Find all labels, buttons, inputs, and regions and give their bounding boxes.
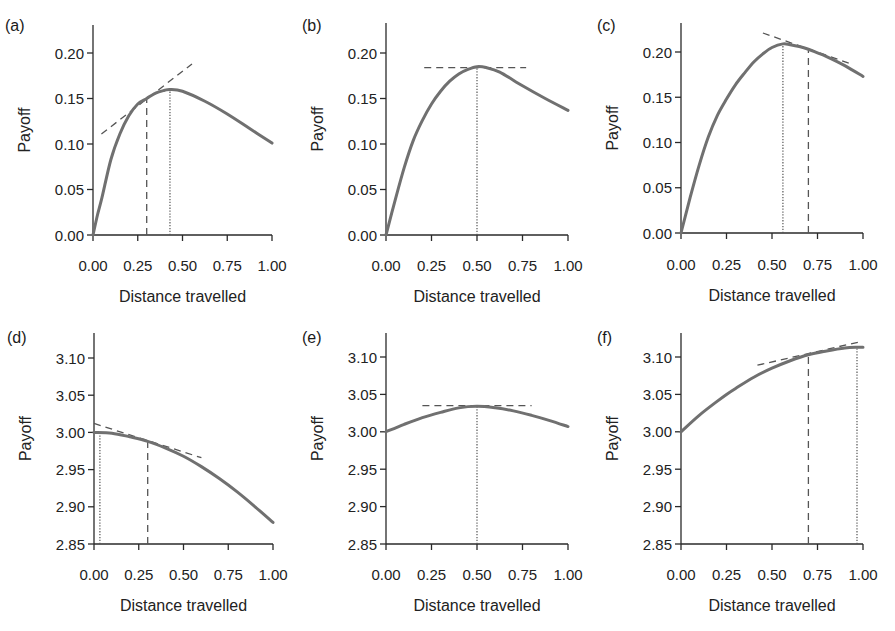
y-tick-label: 0.20 (643, 44, 672, 61)
y-tick-label: 0.10 (643, 134, 672, 151)
y-tick-label: 0.05 (55, 181, 84, 198)
x-tick-label: 0.00 (371, 257, 400, 274)
x-tick-label: 0.00 (79, 566, 108, 583)
y-tick-label: 2.95 (643, 461, 672, 478)
x-tick-label: 0.75 (214, 566, 243, 583)
x-tick-label: 0.75 (508, 257, 537, 274)
x-axis-title: Distance travelled (119, 288, 246, 305)
x-tick-label: 0.50 (757, 566, 786, 583)
y-axis-title: Payoff (17, 415, 34, 461)
x-axis-title: Distance travelled (413, 597, 540, 614)
x-tick-label: 0.75 (803, 256, 832, 273)
x-tick-label: 1.00 (258, 566, 287, 583)
payoff-curve (681, 44, 863, 233)
y-tick-label: 2.85 (643, 536, 672, 553)
y-axis-title: Payoff (309, 106, 326, 152)
y-tick-label: 0.10 (348, 136, 377, 153)
panel-label-a: (a) (5, 17, 25, 34)
x-tick-label: 0.25 (712, 566, 741, 583)
y-tick-label: 0.00 (643, 225, 672, 242)
y-tick-label: 0.05 (348, 181, 377, 198)
y-tick-label: 2.95 (348, 461, 377, 478)
x-tick-label: 0.00 (666, 566, 695, 583)
x-tick-label: 0.25 (123, 257, 152, 274)
x-tick-label: 0.25 (417, 566, 446, 583)
y-tick-label: 0.15 (643, 89, 672, 106)
y-tick-label: 0.20 (348, 45, 377, 62)
x-tick-label: 1.00 (848, 256, 877, 273)
y-tick-label: 3.10 (348, 349, 377, 366)
y-tick-label: 2.90 (348, 498, 377, 515)
x-tick-label: 0.50 (168, 257, 197, 274)
panel-label-f: (f) (597, 329, 612, 346)
y-tick-label: 3.00 (348, 423, 377, 440)
panel-d: (d)2.852.902.953.003.053.100.000.250.500… (7, 329, 288, 614)
y-tick-label: 2.95 (56, 461, 85, 478)
y-tick-label: 0.00 (348, 227, 377, 244)
panel-c: (c)0.000.050.100.150.200.000.250.500.751… (597, 17, 878, 304)
y-tick-label: 2.90 (56, 498, 85, 515)
panel-f: (f)2.852.902.953.003.053.100.000.250.500… (597, 329, 878, 614)
x-tick-label: 1.00 (553, 566, 582, 583)
x-tick-label: 1.00 (257, 257, 286, 274)
x-tick-label: 0.25 (712, 256, 741, 273)
payoff-curve (93, 89, 272, 235)
panel-label-b: (b) (302, 17, 322, 34)
y-tick-label: 2.85 (56, 536, 85, 553)
x-tick-label: 0.00 (371, 566, 400, 583)
y-axis-title: Payoff (604, 415, 621, 461)
x-axis-title: Distance travelled (413, 288, 540, 305)
y-tick-label: 2.90 (643, 498, 672, 515)
x-axis-title: Distance travelled (120, 597, 247, 614)
x-tick-label: 0.25 (417, 257, 446, 274)
x-tick-label: 0.25 (124, 566, 153, 583)
y-tick-label: 3.05 (56, 387, 85, 404)
x-tick-label: 0.50 (169, 566, 198, 583)
panel-e: (e)2.852.902.953.003.053.100.000.250.500… (302, 329, 583, 614)
y-tick-label: 2.85 (348, 536, 377, 553)
y-tick-label: 0.20 (55, 45, 84, 62)
y-tick-label: 3.10 (56, 350, 85, 367)
x-tick-label: 1.00 (553, 257, 582, 274)
payoff-curve (681, 347, 863, 432)
x-tick-label: 0.50 (462, 566, 491, 583)
x-tick-label: 0.50 (462, 257, 491, 274)
y-tick-label: 3.00 (643, 423, 672, 440)
panel-a: (a)0.000.050.100.150.200.000.250.500.751… (5, 17, 287, 305)
y-tick-label: 0.15 (348, 90, 377, 107)
y-tick-label: 0.00 (55, 227, 84, 244)
y-tick-label: 0.10 (55, 136, 84, 153)
panel-label-e: (e) (302, 329, 322, 346)
x-axis-title: Distance travelled (708, 597, 835, 614)
y-axis-title: Payoff (604, 105, 621, 151)
x-tick-label: 1.00 (848, 566, 877, 583)
y-axis-title: Payoff (16, 107, 33, 153)
payoff-curve (94, 432, 273, 522)
payoff-figure: (a)0.000.050.100.150.200.000.250.500.751… (0, 0, 895, 631)
x-tick-label: 0.00 (78, 257, 107, 274)
x-tick-label: 0.75 (803, 566, 832, 583)
x-axis-title: Distance travelled (708, 287, 835, 304)
y-tick-label: 0.05 (643, 179, 672, 196)
x-tick-label: 0.00 (666, 256, 695, 273)
x-tick-label: 0.75 (508, 566, 537, 583)
y-tick-label: 3.05 (643, 386, 672, 403)
panel-label-c: (c) (597, 17, 616, 34)
y-tick-label: 0.15 (55, 90, 84, 107)
x-tick-label: 0.50 (757, 256, 786, 273)
x-tick-label: 0.75 (213, 257, 242, 274)
y-tick-label: 3.10 (643, 349, 672, 366)
panel-b: (b)0.000.050.100.150.200.000.250.500.751… (302, 17, 583, 305)
panel-label-d: (d) (7, 329, 27, 346)
y-axis-title: Payoff (309, 415, 326, 461)
y-tick-label: 3.05 (348, 386, 377, 403)
y-tick-label: 3.00 (56, 424, 85, 441)
